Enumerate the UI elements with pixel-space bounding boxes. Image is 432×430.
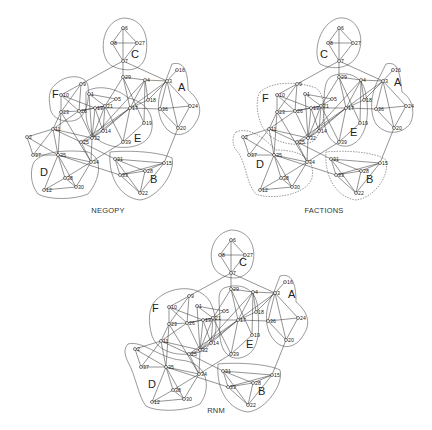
edge [58,112,61,155]
panel-rnm: CAFEDB1234567891011121314151617181920212… [125,230,308,412]
node-label-7: 7 [341,58,344,64]
node-label-25: 25 [299,139,305,145]
node-label-21: 21 [107,103,113,109]
node-label-2: 2 [29,134,32,140]
node-label-19: 19 [254,332,260,338]
node-label-7: 7 [125,58,128,64]
node-label-28: 28 [363,168,369,174]
node-label-5: 5 [226,308,229,314]
group-label-A: A [394,76,402,88]
node-label-25: 25 [191,351,197,357]
edge [269,129,274,155]
node-label-36: 36 [378,106,384,112]
group-label-A: A [288,288,296,300]
node-label-27: 27 [355,40,361,46]
node-label-7: 7 [233,270,236,276]
node-label-11: 11 [271,126,276,132]
edge [305,94,308,138]
edge [383,81,394,128]
edge [274,112,277,155]
node-label-19: 19 [146,120,152,126]
node-label-8: 8 [222,252,225,258]
node-label-39: 39 [341,139,347,145]
node-label-33: 33 [122,172,128,178]
node-label-21: 21 [323,103,329,109]
node-label-38: 38 [175,387,181,393]
network-figure: CAFEDB1234567891011121314151617181920212… [0,0,432,430]
node-label-8: 8 [330,40,333,46]
node-label-29: 29 [233,286,239,292]
node-label-17: 17 [132,105,138,111]
edge [123,77,130,108]
node-label-4: 4 [363,77,366,83]
group-label-E: E [134,132,141,144]
edge [307,138,308,162]
node-label-1: 1 [307,91,310,97]
node-label-39: 39 [125,139,131,145]
group-label-D: D [256,158,264,170]
edge [105,106,123,142]
node-label-33: 33 [230,384,236,390]
node-label-12: 12 [46,187,52,193]
node-label-13: 13 [97,105,103,111]
edge [166,324,169,367]
node-label-15: 15 [382,160,388,166]
node-label-30: 30 [78,184,84,190]
node-label-28: 28 [255,380,261,386]
panel-negopy: CAFEDB1234567891011121314151617181920212… [26,18,200,200]
node-label-37: 37 [35,152,41,158]
node-label-3: 3 [277,290,280,296]
edge [199,350,200,374]
panel-factions: CAFEDB1234567891011121314151617181920212… [233,18,414,200]
node-label-4: 4 [255,289,258,295]
group-label-D: D [40,166,48,178]
node-label-26: 26 [81,108,87,114]
node-label-20: 20 [396,125,402,131]
panel-title-negopy: NEGOPY [91,206,124,215]
node-label-23: 23 [63,109,69,115]
node-label-9: 9 [299,81,302,87]
node-label-16: 16 [179,67,185,73]
edge [81,142,91,162]
node-label-31: 31 [225,368,231,374]
edge [274,155,281,178]
node-label-36: 36 [270,318,276,324]
node-label-35: 35 [60,152,66,158]
edge [160,109,178,128]
node-label-24: 24 [408,103,414,109]
node-label-9: 9 [83,81,86,87]
node-label-18: 18 [150,97,156,103]
node-label-17: 17 [240,317,246,323]
node-label-23: 23 [171,321,177,327]
edge [321,106,339,142]
edge [81,61,123,84]
edge [268,321,286,340]
edge [339,77,346,108]
edge [167,81,178,128]
group-hull-A [372,63,413,132]
node-label-10: 10 [63,92,69,98]
node-label-13: 13 [313,105,319,111]
node-label-28: 28 [147,168,153,174]
node-label-6: 6 [341,25,344,31]
node-label-32: 32 [202,347,208,353]
node-label-9: 9 [191,293,194,299]
node-label-30: 30 [294,184,300,190]
edge [91,138,92,162]
node-label-32: 32 [310,135,316,141]
edge [231,289,238,320]
node-label-11: 11 [55,126,60,132]
group-label-F: F [152,302,159,314]
edge [376,109,394,128]
node-label-23: 23 [279,109,285,115]
node-label-30: 30 [186,396,192,402]
node-label-5: 5 [334,96,337,102]
edge [295,111,308,138]
node-label-19: 19 [362,120,368,126]
panel-title-rnm: RNM [207,406,225,415]
node-label-1: 1 [199,303,202,309]
group-label-D: D [148,378,156,390]
panel-title-factions: FACTIONS [304,206,343,215]
node-label-32: 32 [94,135,100,141]
node-label-17: 17 [348,105,354,111]
